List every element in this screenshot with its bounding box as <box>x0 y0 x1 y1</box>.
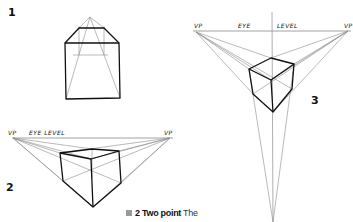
figure-caption: 2 Two point The <box>126 208 198 218</box>
level-label: LEVEL <box>277 22 298 29</box>
one-point-drawing <box>65 17 120 99</box>
caption-number: 2 <box>135 208 140 218</box>
vp-right-label: VP <box>344 22 353 29</box>
eye-label: EYE <box>238 22 251 29</box>
perspective-diagram: VP EYE LEVEL VP VP EYE LEVEL VP <box>0 0 353 222</box>
eye-level-label: EYE LEVEL <box>29 129 65 136</box>
caption-title: Two point <box>142 208 181 218</box>
caption-text: The <box>183 208 198 218</box>
two-point-drawing: VP EYE LEVEL VP <box>8 129 173 207</box>
vp-left-label: VP <box>8 129 17 136</box>
caption-bullet-icon <box>126 210 132 216</box>
vp-right-label: VP <box>164 129 173 136</box>
vp-left-label: VP <box>194 22 203 29</box>
three-point-drawing: VP EYE LEVEL VP <box>193 12 353 222</box>
